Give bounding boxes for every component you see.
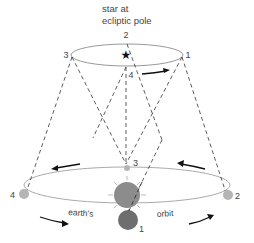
star-pos-2: 2 xyxy=(123,30,128,40)
earth-label-2: 2 xyxy=(235,191,240,201)
title-line2: ecliptic pole xyxy=(102,15,152,26)
earth-label-4: 4 xyxy=(10,190,15,200)
star-icon: ★ xyxy=(121,48,132,62)
star-pos-4: 4 xyxy=(128,70,133,80)
arrow-upper-left-icon xyxy=(51,164,80,171)
star-motion-arrow-icon xyxy=(142,68,170,74)
orbit-label-left: earth's xyxy=(68,207,94,219)
title-line1: star at xyxy=(102,3,129,14)
star-pos-3: 3 xyxy=(63,50,68,60)
star-pos-1: 1 xyxy=(185,50,190,60)
earth-label-1: 1 xyxy=(139,224,144,234)
parallax-diagram: star at ecliptic pole ★ 2 3 1 4 xyxy=(0,0,254,243)
earth-pos-2 xyxy=(223,190,233,200)
earth-pos-4 xyxy=(19,189,29,199)
arrow-upper-right-icon xyxy=(177,160,205,169)
arrow-lower-left-icon xyxy=(40,217,69,227)
orbit-label-right: orbit xyxy=(156,208,174,219)
earth-pos-3 xyxy=(124,165,130,171)
earth-label-3: 3 xyxy=(133,158,138,168)
arrow-lower-right-icon xyxy=(189,214,214,224)
